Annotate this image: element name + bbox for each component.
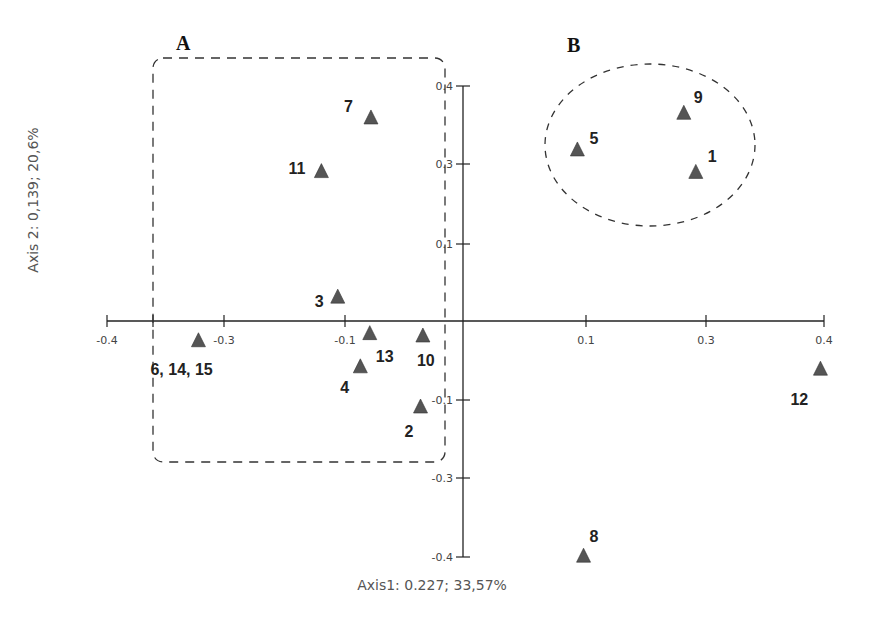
group-a-box — [153, 58, 445, 462]
data-point — [416, 328, 430, 342]
y-tick-label: -0.3 — [432, 472, 453, 485]
data-point — [364, 110, 378, 124]
data-point — [353, 359, 367, 373]
data-point-label: 12 — [790, 391, 808, 408]
data-point — [314, 164, 328, 178]
data-point — [813, 361, 827, 375]
x-tick-label: -0.4 — [96, 334, 117, 347]
data-point — [570, 142, 584, 156]
y-tick-label: 0.3 — [436, 158, 454, 171]
axes: -0.4-0.3-0.10.10.30.4 0.40.30.1-0.1-0.3-… — [96, 80, 832, 564]
data-point-label: 5 — [589, 130, 598, 147]
y-tick-label: 0.1 — [436, 238, 454, 251]
data-point — [414, 399, 428, 413]
group-b-label: B — [567, 34, 580, 56]
data-point-label: 4 — [340, 379, 349, 396]
data-point-label: 6, 14, 15 — [150, 361, 212, 378]
data-point — [363, 326, 377, 340]
data-point — [331, 289, 345, 303]
data-points: 95171136, 14, 15131042128 — [150, 89, 827, 562]
data-point-label: 3 — [315, 293, 324, 310]
data-point-label: 11 — [288, 160, 305, 177]
x-tick-label: 0.4 — [815, 334, 833, 347]
data-point-label: 2 — [405, 423, 414, 440]
data-point-label: 7 — [344, 98, 353, 115]
data-point-label: 13 — [376, 348, 394, 365]
data-point — [577, 548, 591, 562]
x-axis-title: Axis1: 0.227; 33,57% — [357, 577, 507, 593]
y-axis-title: Axis 2: 0,139; 20,6% — [25, 127, 41, 272]
data-point — [689, 164, 703, 178]
scatter-chart: -0.4-0.3-0.10.10.30.4 0.40.30.1-0.1-0.3-… — [0, 0, 869, 621]
data-point-label: 10 — [417, 352, 435, 369]
x-tick-label: 0.3 — [697, 334, 715, 347]
data-point-label: 8 — [590, 528, 599, 545]
y-tick-label: -0.4 — [432, 551, 453, 564]
y-tick-label: -0.1 — [432, 394, 453, 407]
group-annotations: A B — [153, 32, 755, 462]
data-point-label: 9 — [694, 89, 703, 106]
data-point — [191, 333, 205, 347]
group-a-label: A — [176, 32, 191, 54]
x-tick-label: 0.1 — [577, 334, 595, 347]
x-tick-label: -0.1 — [334, 334, 355, 347]
data-point-label: 1 — [708, 148, 717, 165]
x-ticks: -0.4-0.3-0.10.10.30.4 — [96, 315, 832, 347]
y-tick-label: 0.4 — [436, 80, 454, 93]
x-tick-label: -0.3 — [213, 334, 234, 347]
data-point — [677, 105, 691, 119]
y-ticks: 0.40.30.1-0.1-0.3-0.4 — [432, 80, 470, 564]
